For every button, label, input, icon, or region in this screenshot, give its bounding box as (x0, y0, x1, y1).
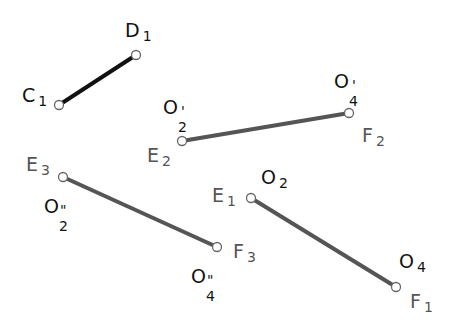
segment-e1f1 (251, 198, 396, 287)
label-f1-sub: 1 (424, 299, 433, 315)
label-o2-double-prime-mark: " (60, 203, 66, 217)
label-o4-sub: 4 (417, 259, 426, 275)
label-d1-sub: 1 (143, 28, 152, 44)
label-f3: F3 (233, 242, 256, 264)
label-o4: O4 (399, 252, 426, 274)
label-c1-main: C (22, 84, 35, 106)
label-d1-main: D (125, 19, 140, 41)
label-f3-main: F (233, 240, 244, 262)
label-f2: F2 (362, 126, 385, 148)
label-o4-prime-mark: ' (352, 78, 356, 92)
label-d1: D1 (125, 21, 152, 43)
label-o2-main: O (261, 166, 276, 188)
label-e1-main: E (212, 184, 224, 206)
label-o2: O2 (261, 168, 288, 190)
point-e1f1-end (392, 283, 401, 292)
label-f1: F1 (410, 292, 433, 314)
point-e2f2-end (345, 109, 354, 118)
label-o2-prime-mark: ' (181, 104, 185, 118)
label-e2-main: E (147, 144, 159, 166)
label-e1-sub: 1 (227, 193, 236, 209)
label-e2: E2 (147, 146, 171, 168)
label-o4-prime-main: O (334, 70, 349, 92)
point-e3f3-end (213, 243, 222, 252)
segment-e2f2 (182, 113, 349, 141)
label-o2-sub: 2 (279, 175, 288, 191)
point-e2f2-start (178, 137, 187, 146)
point-e3f3-start (59, 173, 68, 182)
label-o2-double-prime: O"2 (44, 197, 69, 216)
label-o4-main: O (399, 250, 414, 272)
segments-layer (0, 0, 454, 334)
label-o4-double-prime-mark: " (207, 273, 213, 287)
label-f2-sub: 2 (376, 133, 385, 149)
label-e3-main: E (26, 153, 38, 175)
label-o2-prime-sub: 2 (178, 120, 187, 134)
label-e3: E3 (26, 155, 50, 177)
label-o2-prime-main: O (163, 96, 178, 118)
point-c1d1-end (132, 51, 141, 60)
label-o4-double-prime-main: O (191, 265, 206, 287)
label-o4-prime-sub: 4 (349, 94, 358, 108)
diagram-canvas: C1 D1 O'2 E2 O'4 F2 E3 O"2 E1 O2 F3 O"4 … (0, 0, 454, 334)
point-c1d1-start (55, 101, 64, 110)
label-e1: E1 (212, 186, 236, 208)
label-f3-sub: 3 (247, 249, 256, 265)
label-o4-prime: O'4 (334, 72, 359, 91)
segment-e3f3 (63, 177, 217, 247)
label-f2-main: F (362, 124, 373, 146)
label-e2-sub: 2 (162, 153, 171, 169)
segment-c1d1 (59, 55, 136, 105)
label-e3-sub: 3 (41, 162, 50, 178)
label-o2-double-prime-sub: 2 (59, 219, 68, 233)
label-c1: C1 (22, 86, 47, 108)
label-o4-double-prime: O"4 (191, 267, 216, 286)
label-o2-double-prime-main: O (44, 195, 59, 217)
label-o4-double-prime-sub: 4 (206, 289, 215, 303)
label-o2-prime: O'2 (163, 98, 188, 117)
label-f1-main: F (410, 290, 421, 312)
point-e1f1-start (247, 194, 256, 203)
label-c1-sub: 1 (38, 93, 47, 109)
